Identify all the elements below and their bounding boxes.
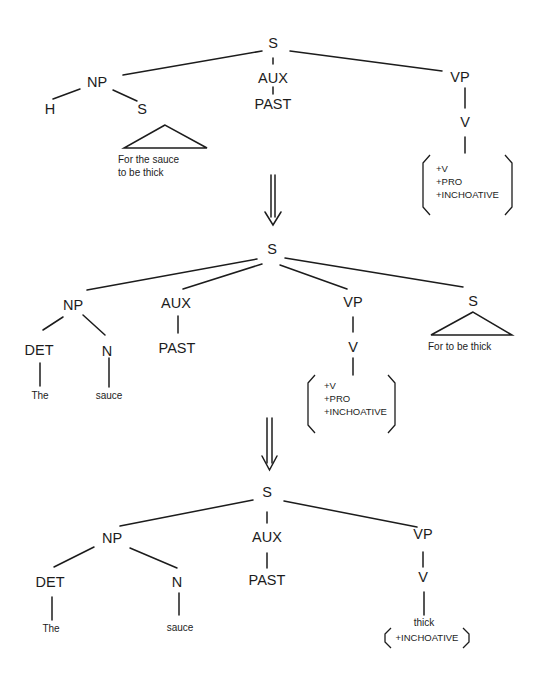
branch-line (284, 501, 417, 527)
tree3-np: NP (102, 530, 122, 546)
tree1-np: NP (87, 74, 107, 90)
tree3-vp: VP (413, 526, 432, 542)
tree2-s-text: For to be thick (428, 341, 492, 352)
tree3-aux: AUX (252, 529, 282, 545)
branch-line (113, 90, 137, 101)
tree1-np-head: H (45, 101, 55, 117)
triangle-abbreviation (431, 312, 512, 335)
tree1-feature: +V (436, 163, 449, 174)
branch-line (130, 548, 177, 568)
tree3-det: DET (36, 574, 65, 590)
tree2-np: NP (63, 297, 83, 313)
tree3-det-word: The (42, 623, 60, 634)
tree3-v: V (418, 569, 428, 585)
tree2-det: DET (25, 342, 54, 358)
tree1-embedded-text-line1: For the sauce (118, 154, 180, 165)
tree2-n: N (102, 343, 112, 359)
branch-line (87, 259, 257, 290)
tree3-feature: +INCHOATIVE (396, 632, 459, 643)
branch-line (183, 264, 262, 289)
branch-line (120, 500, 253, 526)
feature-bracket-right (463, 628, 469, 648)
tree2-aux: AUX (161, 295, 191, 311)
tree1-vp: VP (450, 69, 469, 85)
tree1-feature: +INCHOATIVE (436, 189, 499, 200)
tree3-n-word: sauce (167, 622, 194, 633)
tree1-aux: AUX (258, 70, 288, 86)
branch-line (43, 317, 63, 330)
tree2-aux-value: PAST (159, 340, 196, 356)
feature-bracket-left (385, 628, 391, 648)
tree1-v: V (460, 114, 470, 130)
tree2-vp: VP (343, 294, 362, 310)
feature-bracket-right (505, 155, 512, 215)
triangle-abbreviation (124, 125, 207, 148)
tree3-aux-value: PAST (249, 572, 286, 588)
feature-bracket-left (423, 155, 430, 215)
tree2-n-word: sauce (96, 390, 123, 401)
tree2-det-word: The (31, 390, 49, 401)
tree2-feature: +PRO (324, 393, 350, 404)
tree3-v-word: thick (414, 617, 436, 628)
syntax-tree-derivation-figure: S NP H S For the sauce to be thick AUX P… (0, 0, 539, 681)
tree-2-intermediate-structure: S NP DET N The sauce AUX PAST VP V +V +P… (25, 241, 513, 433)
tree3-n: N (172, 574, 182, 590)
derivation-arrow-icon (262, 418, 277, 470)
tree2-v: V (348, 339, 358, 355)
branch-line (83, 315, 105, 335)
feature-bracket-right (388, 375, 395, 433)
feature-bracket-left (308, 375, 315, 433)
branch-line (290, 51, 442, 71)
tree1-root-s: S (268, 35, 278, 51)
tree-1-deep-structure: S NP H S For the sauce to be thick AUX P… (45, 35, 512, 215)
derivation-arrow-icon (265, 175, 281, 225)
branch-line (54, 547, 94, 567)
branch-line (53, 89, 80, 99)
branch-line (280, 265, 347, 289)
tree1-embedded-text-line2: to be thick (118, 167, 165, 178)
branch-line (123, 51, 262, 75)
tree2-feature: +INCHOATIVE (324, 406, 387, 417)
tree1-aux-value: PAST (255, 96, 292, 112)
tree2-extraposed-s: S (468, 293, 478, 309)
branch-line (285, 258, 463, 287)
tree2-root-s: S (267, 241, 277, 257)
tree-3-surface-structure: S NP DET N The sauce AUX PAST VP V thick… (36, 484, 470, 648)
tree1-feature: +PRO (436, 176, 462, 187)
tree1-embedded-s: S (137, 101, 147, 117)
tree3-root-s: S (262, 484, 272, 500)
tree2-feature: +V (324, 380, 337, 391)
